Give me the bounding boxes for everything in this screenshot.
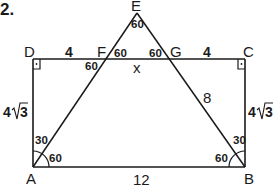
angle-arcs [33, 151, 245, 167]
geometry-figure [0, 0, 275, 187]
rectangle-abcd [33, 59, 245, 167]
triangle-lines [33, 13, 245, 167]
